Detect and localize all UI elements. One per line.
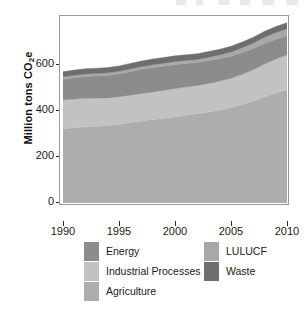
- legend-swatch-energy: [84, 242, 99, 261]
- plot-area: [63, 19, 287, 203]
- y-axis-ticks: 0200400600: [10, 0, 54, 317]
- legend-label-energy: Energy: [106, 246, 139, 257]
- legend-label-waste: Waste: [226, 266, 255, 277]
- legend-label-lulucf: LULUCF: [226, 246, 267, 257]
- legend-entry-industrial-processes[interactable]: Industrial Processes: [84, 261, 204, 281]
- legend-swatch-waste: [204, 262, 219, 281]
- legend-entry-waste[interactable]: Waste: [204, 261, 294, 281]
- legend-entry-lulucf[interactable]: LULUCF: [204, 241, 294, 261]
- y-tick-label-0: 0: [20, 196, 54, 207]
- legend-column-left: EnergyIndustrial ProcessesAgriculture: [84, 241, 204, 301]
- x-tick-label-1995: 1995: [99, 226, 139, 237]
- stacked-area-chart: [63, 19, 287, 203]
- plot-panel: 19901995200020052010: [59, 15, 289, 205]
- legend-swatch-agriculture: [84, 282, 99, 301]
- x-tick-label-1990: 1990: [43, 226, 83, 237]
- x-tick-label-2000: 2000: [155, 226, 195, 237]
- legend-swatch-lulucf: [204, 242, 219, 261]
- x-tick-label-2005: 2005: [211, 226, 251, 237]
- y-tick-label-600: 600: [20, 58, 54, 69]
- y-tick-label-200: 200: [20, 150, 54, 161]
- legend-label-industrial-processes: Industrial Processes: [106, 266, 201, 277]
- legend-label-agriculture: Agriculture: [106, 286, 156, 297]
- legend-column-right: LULUCFWaste: [204, 241, 294, 281]
- y-tick-label-400: 400: [20, 104, 54, 115]
- legend-entry-energy[interactable]: Energy: [84, 241, 204, 261]
- cropped-caption-remnant: [170, 0, 307, 5]
- x-tick-label-2010: 2010: [267, 226, 307, 237]
- chart-legend: EnergyIndustrial ProcessesAgriculture LU…: [60, 241, 290, 305]
- legend-entry-agriculture[interactable]: Agriculture: [84, 281, 204, 301]
- figure-root: Million tons CO2e 0200400600 19901995200…: [0, 0, 307, 317]
- legend-swatch-industrial-processes: [84, 262, 99, 281]
